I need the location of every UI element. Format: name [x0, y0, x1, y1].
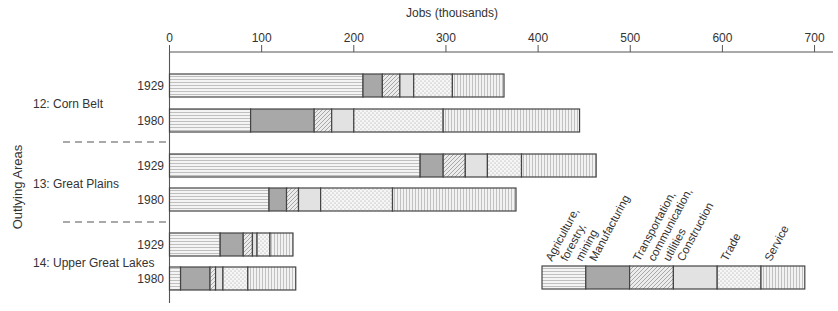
bar-segment [443, 154, 465, 177]
bar-segment [243, 233, 252, 256]
year-label: 1980 [137, 114, 164, 128]
legend-swatch [717, 266, 761, 289]
bar-segment [170, 74, 364, 97]
bar-segment [251, 109, 315, 132]
bar-segment [487, 154, 521, 177]
legend-swatch [542, 266, 586, 289]
bar-segment [393, 188, 516, 211]
stacked-bar-chart: Jobs (thousands)0100200300400500600700 1… [0, 0, 838, 311]
x-tick-label: 400 [528, 31, 548, 45]
legend-label: Service [762, 223, 791, 263]
bar-segment [216, 267, 223, 290]
legend-swatch [673, 266, 717, 289]
year-label: 1929 [137, 238, 164, 252]
bar-segment [332, 109, 354, 132]
x-tick-label: 600 [712, 31, 732, 45]
x-tick-label: 200 [344, 31, 364, 45]
x-tick-label: 700 [805, 31, 825, 45]
bars [170, 74, 597, 290]
bar-segment [170, 267, 181, 290]
bar-segment [420, 154, 443, 177]
bar-segment [443, 109, 579, 132]
bar-segment [299, 188, 321, 211]
group-label: 12: Corn Belt [33, 97, 104, 111]
bar-segment [269, 188, 287, 211]
legend-swatch [630, 266, 674, 289]
bar-segment [170, 188, 270, 211]
year-label: 1929 [137, 159, 164, 173]
legend-swatch [761, 266, 805, 289]
bar-segment [181, 267, 210, 290]
x-tick-label: 100 [252, 31, 272, 45]
bar-segment [314, 109, 332, 132]
legend-swatch [586, 266, 630, 289]
chart-title: Jobs (thousands) [406, 6, 498, 20]
y-axis-title: Outlying Areas [10, 144, 25, 229]
group-label: 14: Upper Great Lakes [33, 256, 154, 270]
bar-segment [270, 233, 293, 256]
bar-segment [354, 109, 443, 132]
bar-segment [400, 74, 414, 97]
bar-segment [170, 154, 421, 177]
bar-segment [321, 188, 393, 211]
bar-segment [170, 109, 251, 132]
bar-segment [363, 74, 382, 97]
bar-segment [452, 74, 504, 97]
bar-segment [257, 233, 270, 256]
bar-segment [252, 233, 257, 256]
legend: Agriculture,forestry,miningManufacturing… [542, 186, 805, 289]
x-tick-label: 300 [436, 31, 456, 45]
legend-label: Manufacturing [587, 193, 632, 263]
bar-segment [465, 154, 487, 177]
bar-segment [223, 267, 248, 290]
legend-label: Trade [718, 231, 743, 263]
year-label: 1929 [137, 79, 164, 93]
group-label: 13: Great Plains [33, 177, 119, 191]
bar-segment [210, 267, 216, 290]
bar-segment [414, 74, 453, 97]
bar-segment [382, 74, 400, 97]
y-labels: 1929198012: Corn Belt1929198013: Great P… [10, 79, 168, 286]
bar-segment [522, 154, 597, 177]
bar-segment [287, 188, 299, 211]
year-label: 1980 [137, 272, 164, 286]
bar-segment [170, 233, 221, 256]
x-tick-label: 0 [166, 31, 173, 45]
bar-segment [248, 267, 296, 290]
bar-segment [220, 233, 243, 256]
x-tick-label: 500 [620, 31, 640, 45]
year-label: 1980 [137, 193, 164, 207]
